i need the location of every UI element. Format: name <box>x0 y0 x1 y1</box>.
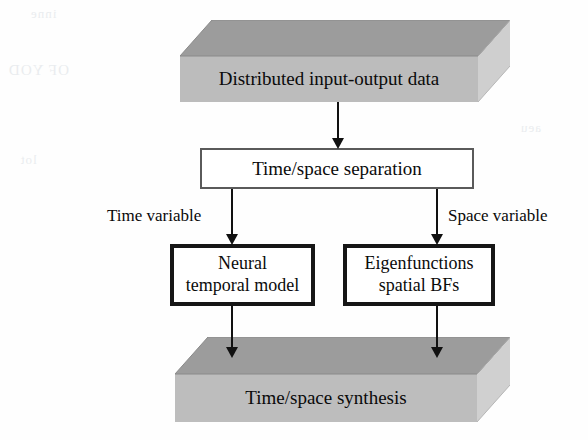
edge-label-time-variable: Time variable <box>107 206 201 226</box>
temporal-box-text: Neural temporal model <box>186 253 299 297</box>
edge-label-space-variable: Space variable <box>448 206 548 226</box>
spatial-box-line2: spatial BFs <box>365 275 474 297</box>
scan-artifact-1: OF YOD <box>8 62 69 79</box>
node-input-slab: Distributed input-output data <box>180 20 510 102</box>
synthesis-slab-label: Time/space synthesis <box>175 387 477 409</box>
temporal-box-line2: temporal model <box>186 275 299 297</box>
scan-artifact-3: lot <box>20 152 37 168</box>
node-separation-box[interactable]: Time/space separation <box>200 148 474 189</box>
node-temporal-box[interactable]: Neural temporal model <box>170 244 315 306</box>
spatial-box-line1: Eigenfunctions <box>365 253 474 275</box>
temporal-box-line1: Neural <box>186 253 299 275</box>
input-slab-label: Distributed input-output data <box>180 68 478 90</box>
diagram-canvas: OF YOD inne lot aeu Distributed input-ou… <box>0 0 588 440</box>
scan-artifact-2: inne <box>30 6 56 22</box>
scan-artifact-4: aeu <box>520 120 541 136</box>
spatial-box-text: Eigenfunctions spatial BFs <box>365 253 474 297</box>
separation-box-label: Time/space separation <box>252 157 422 180</box>
node-spatial-box[interactable]: Eigenfunctions spatial BFs <box>343 244 495 306</box>
